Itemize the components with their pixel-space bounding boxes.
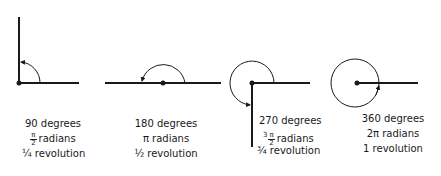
revolution-text: ¾ revolution [257,143,321,158]
revolution-text: ¼ revolution [22,146,84,161]
radians-text: 2π radians [360,126,426,141]
degrees-text: 360 degrees [360,111,426,126]
fraction: π2 [30,132,36,147]
degrees-text: 90 degrees [22,116,84,131]
angle-180-figure [105,65,221,86]
angle-90-figure [17,17,80,86]
radians-text: π radians [134,131,198,146]
label-270: 270 degrees 3π2radians ¾ revolution [257,113,321,158]
label-90: 90 degrees π2radians ¼ revolution [22,116,84,161]
label-180: 180 degrees π radians ½ revolution [134,116,198,161]
revolution-text: ½ revolution [134,146,198,161]
angle-360-figure [331,59,418,107]
degrees-text: 270 degrees [257,113,321,128]
label-360: 360 degrees 2π radians 1 revolution [360,111,426,156]
radians-text: 3π2radians [257,128,321,143]
radians-text: π2radians [22,131,84,146]
revolution-text: 1 revolution [360,141,426,156]
degrees-text: 180 degrees [134,116,198,131]
